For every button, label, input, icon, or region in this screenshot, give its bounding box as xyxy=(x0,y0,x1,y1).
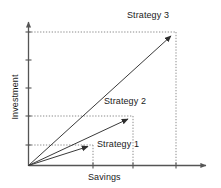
label-strategy-3: Strategy 3 xyxy=(127,10,169,20)
y-axis-label: Investment xyxy=(10,58,20,136)
label-strategy-2: Strategy 2 xyxy=(104,96,146,106)
diagram-canvas xyxy=(0,0,221,188)
x-axis xyxy=(29,163,207,169)
y-axis xyxy=(26,22,32,166)
strategy-vector-diagram: Strategy 3 Strategy 2 Strategy 1 Savings… xyxy=(0,0,221,188)
label-strategy-1: Strategy 1 xyxy=(97,139,139,149)
x-axis-label: Savings xyxy=(88,172,121,182)
vector-strategy-1 xyxy=(29,147,89,166)
